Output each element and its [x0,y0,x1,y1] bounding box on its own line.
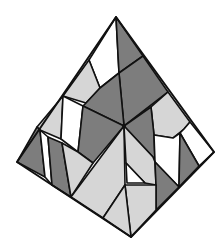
pieces-group [17,17,214,237]
apex-center-vertex [122,124,126,128]
pyramid-dissection-diagram [0,0,223,248]
